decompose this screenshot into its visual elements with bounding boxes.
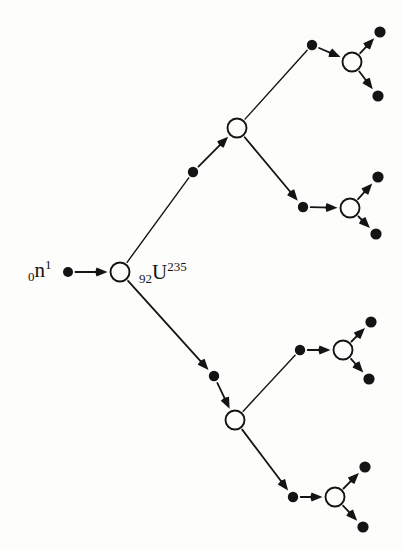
nucleus-circle <box>326 488 345 507</box>
neutron-dot <box>372 171 383 182</box>
neutron-dot <box>63 267 73 277</box>
edge-emission <box>360 38 374 53</box>
edge-emission <box>351 359 363 373</box>
chain-reaction-svg <box>0 0 402 550</box>
uranium-atomic-number: 92 <box>139 271 152 286</box>
neutron-symbol: n <box>35 258 46 282</box>
arrowhead <box>362 78 372 90</box>
edge-emission <box>243 355 295 411</box>
neutron-dot <box>359 461 370 472</box>
edge-emission <box>351 328 364 341</box>
arrowhead <box>278 479 288 491</box>
edge-emission <box>128 281 208 370</box>
edge-emission <box>245 137 298 201</box>
uranium-symbol: U <box>152 260 167 284</box>
edge-capture <box>217 383 229 409</box>
neutron-dot <box>374 26 385 37</box>
arrowhead <box>221 397 230 409</box>
nucleus-circle <box>334 341 353 360</box>
nucleus-circle <box>226 411 245 430</box>
arrowhead <box>310 492 322 501</box>
edge-capture <box>76 267 108 276</box>
neutron-dot <box>288 492 298 502</box>
nucleus-circle <box>228 119 247 138</box>
neutron-dot <box>188 167 198 177</box>
edge-emission <box>343 473 358 488</box>
fission-chain-reaction-figure: 0n1 92U235 <box>0 0 402 550</box>
arrowhead <box>318 345 330 354</box>
edge-emission <box>127 178 189 262</box>
edge-emission <box>358 216 369 227</box>
node-layer <box>63 26 386 532</box>
neutron-dot <box>372 90 383 101</box>
edge-capture <box>311 203 338 212</box>
neutron-dot <box>370 228 381 239</box>
neutron-dot <box>298 202 308 212</box>
nucleus-circle <box>111 263 130 282</box>
edge-emission <box>343 506 357 521</box>
neutron-mass-number: 1 <box>45 257 52 272</box>
neutron-dot <box>307 40 317 50</box>
uranium-mass-number: 235 <box>167 259 187 274</box>
neutron-dot <box>357 521 368 532</box>
nucleus-circle <box>343 53 362 72</box>
edge-emission <box>242 430 288 491</box>
edge-emission <box>245 50 307 119</box>
neutron-dot <box>363 373 374 384</box>
neutron-label: 0n1 <box>28 260 52 281</box>
edge-emission <box>358 183 372 199</box>
neutron-dot <box>365 316 376 327</box>
edge-capture <box>198 137 228 167</box>
neutron-atomic-number: 0 <box>28 269 35 284</box>
edge-emission <box>359 72 372 90</box>
nucleus-circle <box>341 199 360 218</box>
uranium-label: 92U235 <box>139 262 187 283</box>
arrowhead <box>95 267 107 276</box>
edge-capture <box>301 492 323 501</box>
arrowhead <box>329 49 341 58</box>
edge-capture <box>308 345 331 354</box>
arrowhead <box>325 203 337 212</box>
edge-capture <box>319 48 340 57</box>
neutron-dot <box>295 345 305 355</box>
neutron-dot <box>209 371 219 381</box>
